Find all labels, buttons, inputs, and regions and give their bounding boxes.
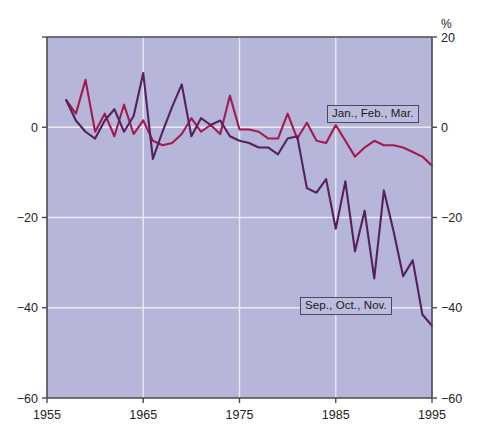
x-tick-label: 1965 [129, 408, 157, 422]
x-tick-label: 1955 [33, 408, 61, 422]
y-tick-label-right: −40 [441, 301, 462, 315]
x-axis-ticks: 19551965197519851995 [33, 398, 446, 422]
series-label-jan-feb-mar: Jan., Feb., Mar. [327, 105, 419, 123]
chart-container: 2000−20−20−40−40−60−60%19551965197519851… [0, 0, 482, 433]
series-label-sep-oct-nov: Sep., Oct., Nov. [300, 297, 392, 315]
x-tick-label: 1995 [418, 408, 446, 422]
y-tick-label-left: −60 [17, 392, 38, 406]
y-tick-label-left: −40 [17, 301, 38, 315]
x-tick-label: 1985 [322, 408, 350, 422]
line-chart: 2000−20−20−40−40−60−60%19551965197519851… [0, 0, 482, 433]
y-tick-label-right: −20 [441, 211, 462, 225]
x-tick-label: 1975 [226, 408, 254, 422]
y-tick-label-right: 0 [441, 121, 448, 135]
y-tick-label-left: −20 [17, 211, 38, 225]
y-tick-label-right: −60 [441, 392, 462, 406]
y-axis-unit-label: % [441, 17, 452, 31]
y-tick-label-left: 0 [31, 121, 38, 135]
y-tick-label-right: 20 [441, 31, 455, 45]
